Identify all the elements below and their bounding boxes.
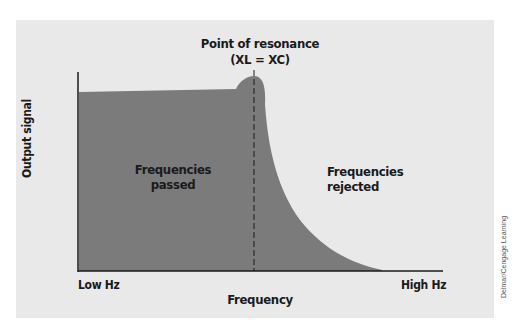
- rejected-line2: rejected: [327, 179, 447, 194]
- rejected-line1: Frequencies: [327, 164, 447, 179]
- passed-line2: passed: [118, 177, 228, 192]
- resonance-title: Point of resonance (XL = XC): [180, 36, 340, 68]
- passed-line1: Frequencies: [118, 162, 228, 177]
- image-credit: Delmar/Cengage Learning: [500, 216, 507, 298]
- x-axis-max-label: High Hz: [401, 278, 446, 292]
- x-axis-min-label: Low Hz: [78, 278, 120, 292]
- frequencies-rejected-label: Frequencies rejected: [327, 164, 447, 194]
- title-line1: Point of resonance: [180, 36, 340, 52]
- y-axis-label: Output signal: [20, 99, 34, 178]
- title-line2: (XL = XC): [180, 52, 340, 68]
- frequencies-passed-label: Frequencies passed: [118, 162, 228, 192]
- x-axis-label: Frequency: [210, 292, 310, 307]
